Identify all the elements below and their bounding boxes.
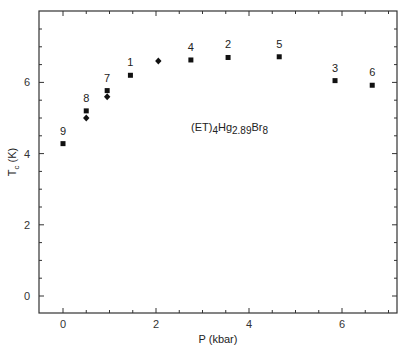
axis-ticks [39, 11, 397, 313]
plot-frame [39, 11, 397, 313]
tick-labels: 02460246 [24, 76, 345, 330]
point-number-label: 4 [188, 41, 194, 53]
diamond-marker [104, 93, 110, 100]
square-marker [84, 108, 89, 113]
y-tick-label: 2 [24, 219, 30, 231]
square-marker [333, 78, 338, 83]
square-marker [128, 73, 133, 78]
tc-vs-pressure-chart: 02460246 987142536 (ET)4Hg2.89Br8 P (kba… [0, 0, 404, 351]
annotation-part: 2.89 [232, 125, 252, 136]
x-tick-label: 4 [246, 318, 252, 330]
y-tick-label: 0 [24, 290, 30, 302]
x-tick-label: 2 [153, 318, 159, 330]
annotation-part: 8 [262, 125, 268, 136]
annotation-part: (ET) [191, 121, 212, 133]
y-axis-label-unit: (K) [6, 148, 18, 166]
point-number-label: 3 [332, 62, 338, 74]
square-marker [188, 57, 193, 62]
point-number-label: 8 [83, 92, 89, 104]
point-number-label: 5 [276, 38, 282, 50]
square-marker [370, 83, 375, 88]
annotation-part: Hg [218, 121, 232, 133]
square-marker [61, 141, 66, 146]
point-number-label: 9 [60, 125, 66, 137]
point-number-label: 1 [127, 56, 133, 68]
y-tick-label: 6 [24, 76, 30, 88]
square-marker [226, 55, 231, 60]
diamond-marker [155, 58, 161, 65]
x-tick-label: 0 [60, 318, 66, 330]
y-tick-label: 4 [24, 148, 30, 160]
point-number-label: 2 [225, 38, 231, 50]
y-axis-label: Tc (K) [6, 148, 21, 176]
x-axis-label: P (kbar) [199, 333, 238, 345]
point-number-label: 6 [369, 66, 375, 78]
annotation-part: Br [251, 121, 262, 133]
compound-annotation: (ET)4Hg2.89Br8 [191, 121, 268, 136]
diamond-marker [83, 115, 89, 122]
square-marker [277, 54, 282, 59]
square-marker [105, 88, 110, 93]
x-tick-label: 6 [339, 318, 345, 330]
point-number-label: 7 [104, 72, 110, 84]
